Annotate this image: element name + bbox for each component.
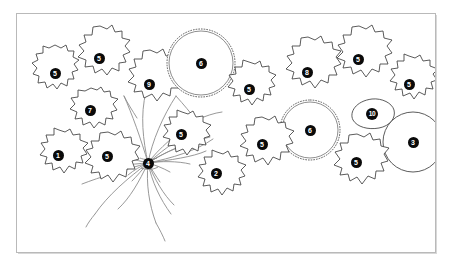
leaf-outline-1 bbox=[40, 128, 88, 173]
leaf-marker-6: 6 bbox=[305, 125, 316, 136]
leaf-marker-2: 2 bbox=[211, 168, 222, 179]
leaf-outline-5-lower-left bbox=[85, 131, 140, 182]
leaf-outline-5-top-mid bbox=[228, 60, 276, 105]
leaf-marker-7: 7 bbox=[85, 105, 96, 116]
leaf-marker-5: 5 bbox=[404, 79, 415, 90]
leaf-outline-2 bbox=[198, 150, 246, 195]
leaf-rosette-drawing bbox=[0, 0, 454, 275]
leaf-outline-5-upper-right bbox=[337, 25, 392, 77]
leaf-outline-5-lower-right bbox=[334, 133, 389, 184]
leaf-marker-4: 4 bbox=[143, 158, 154, 169]
leaf-marker-5: 5 bbox=[257, 139, 268, 150]
leaf-marker-5: 5 bbox=[102, 151, 113, 162]
leaf-marker-5: 5 bbox=[244, 84, 255, 95]
figure-root: 55796585510365552451 bbox=[0, 0, 454, 275]
leaf-marker-6: 6 bbox=[196, 58, 207, 69]
leaf-outline-5-far-right bbox=[390, 54, 438, 99]
leaf-marker-5: 5 bbox=[50, 68, 61, 79]
leaf-marker-5: 5 bbox=[176, 129, 187, 140]
leaf-outline-5-top-left bbox=[78, 25, 130, 75]
leaf-marker-9: 9 bbox=[144, 79, 155, 90]
leaf-marker-3: 3 bbox=[408, 137, 419, 148]
leaf-marker-5: 5 bbox=[353, 54, 364, 65]
leaf-marker-8: 8 bbox=[302, 67, 313, 78]
leaf-marker-5: 5 bbox=[94, 53, 105, 64]
leaf-marker-5: 5 bbox=[351, 157, 362, 168]
leaf-outline-8 bbox=[286, 36, 341, 88]
leaf-marker-1: 1 bbox=[53, 150, 64, 161]
leaf-marker-10: 10 bbox=[366, 108, 378, 120]
